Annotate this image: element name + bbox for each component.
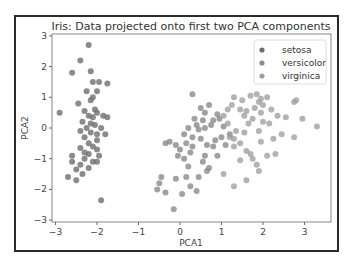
data-point-setosa (94, 137, 100, 143)
data-point-setosa (79, 171, 85, 177)
data-point-setosa (69, 153, 75, 159)
data-point-setosa (73, 166, 79, 172)
data-point-virginica (291, 99, 297, 105)
data-point-setosa (96, 79, 102, 85)
data-point-setosa (77, 162, 83, 168)
data-point-virginica (225, 107, 231, 113)
data-point-setosa (82, 150, 88, 156)
data-point-virginica (250, 156, 256, 162)
legend-marker-setosa (259, 47, 264, 52)
data-point-virginica (248, 93, 254, 99)
data-point-virginica (254, 162, 260, 168)
x-tick-label: −1 (132, 227, 145, 237)
data-point-virginica (221, 171, 227, 177)
data-point-versicolor (202, 110, 208, 116)
data-point-setosa (82, 156, 88, 162)
data-point-virginica (233, 128, 239, 134)
data-point-versicolor (200, 117, 206, 123)
data-point-setosa (57, 110, 63, 116)
data-point-setosa (82, 134, 88, 140)
x-tick-label: −2 (90, 227, 103, 237)
data-point-versicolor (189, 143, 195, 149)
data-point-versicolor (196, 174, 202, 180)
data-point-versicolor (206, 102, 212, 108)
data-point-virginica (231, 94, 237, 100)
data-point-versicolor (214, 153, 220, 159)
data-point-setosa (69, 70, 75, 76)
data-point-virginica (254, 91, 260, 97)
y-tick-label: 1 (41, 92, 47, 102)
legend-label-setosa: setosa (282, 45, 311, 55)
data-point-virginica (268, 107, 274, 113)
x-tick-label: −3 (49, 227, 62, 237)
data-point-versicolor (200, 159, 206, 165)
data-point-virginica (279, 131, 285, 137)
data-point-virginica (299, 116, 305, 122)
x-axis: −3−2−10123 (49, 222, 308, 237)
data-point-virginica (270, 136, 276, 142)
y-tick-label: −2 (34, 184, 47, 194)
data-point-versicolor (194, 188, 200, 194)
data-point-versicolor (179, 191, 185, 197)
data-point-versicolor (173, 142, 179, 148)
data-point-virginica (237, 140, 243, 146)
data-point-versicolor (198, 136, 204, 142)
data-point-setosa (65, 174, 71, 180)
data-point-setosa (77, 145, 83, 151)
data-point-versicolor (187, 183, 193, 189)
legend-marker-versicolor (259, 60, 264, 65)
x-tick-label: 2 (260, 227, 266, 237)
data-point-virginica (241, 130, 247, 136)
data-point-versicolor (223, 142, 229, 148)
data-point-versicolor (183, 174, 189, 180)
data-point-virginica (266, 120, 272, 126)
data-point-virginica (256, 128, 262, 134)
data-point-versicolor (202, 153, 208, 159)
data-point-setosa (94, 146, 100, 152)
x-tick-label: 1 (219, 227, 225, 237)
data-point-setosa (77, 57, 83, 63)
data-point-setosa (77, 128, 83, 134)
data-point-virginica (314, 123, 320, 129)
legend-label-virginica: virginica (282, 71, 320, 81)
data-point-setosa (88, 97, 94, 103)
data-point-setosa (104, 114, 110, 120)
series-setosa (57, 42, 111, 203)
data-point-virginica (245, 120, 251, 126)
y-tick-label: 0 (41, 123, 47, 133)
data-point-setosa (82, 108, 88, 114)
data-point-virginica (291, 134, 297, 140)
legend: setosaversicolorvirginica (254, 40, 326, 84)
data-point-virginica (272, 151, 278, 157)
data-point-virginica (264, 94, 270, 100)
data-point-versicolor (208, 122, 214, 128)
data-point-versicolor (175, 153, 181, 159)
data-point-virginica (275, 113, 281, 119)
data-point-setosa (90, 114, 96, 120)
data-point-setosa (88, 68, 94, 74)
data-point-virginica (260, 119, 266, 125)
data-point-versicolor (206, 165, 212, 171)
y-axis-label: PCA2 (20, 116, 30, 140)
data-point-versicolor (171, 206, 177, 212)
data-point-versicolor (204, 142, 210, 148)
data-point-virginica (231, 136, 237, 142)
data-point-virginica (264, 153, 270, 159)
data-point-virginica (221, 113, 227, 119)
data-point-versicolor (187, 150, 193, 156)
chart-title: Iris: Data projected onto first two PCA … (51, 20, 330, 33)
series-versicolor (154, 91, 233, 212)
data-point-versicolor (196, 127, 202, 133)
data-point-versicolor (177, 146, 183, 152)
data-point-setosa (104, 80, 110, 86)
data-point-setosa (75, 100, 81, 106)
data-point-versicolor (173, 176, 179, 182)
data-point-setosa (69, 159, 75, 165)
legend-marker-virginica (259, 73, 264, 78)
y-tick-label: 2 (41, 62, 47, 72)
data-point-versicolor (185, 163, 191, 169)
data-point-setosa (79, 119, 85, 125)
data-point-virginica (283, 114, 289, 120)
x-axis-label: PCA1 (179, 238, 203, 248)
data-point-virginica (231, 143, 237, 149)
